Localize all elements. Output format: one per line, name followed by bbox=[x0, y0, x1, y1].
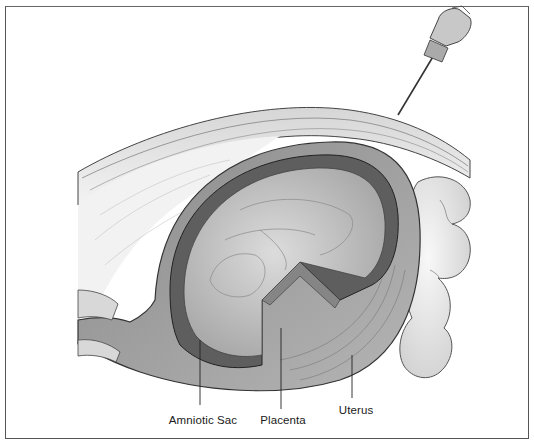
illustration-stage: Amniotic Sac Placenta Uterus bbox=[0, 0, 534, 444]
label-placenta: Placenta bbox=[260, 414, 306, 426]
label-uterus: Uterus bbox=[339, 404, 373, 416]
amniocentesis-illustration bbox=[0, 0, 534, 444]
syringe-needle bbox=[398, 6, 471, 115]
label-amniotic-sac: Amniotic Sac bbox=[169, 414, 237, 426]
